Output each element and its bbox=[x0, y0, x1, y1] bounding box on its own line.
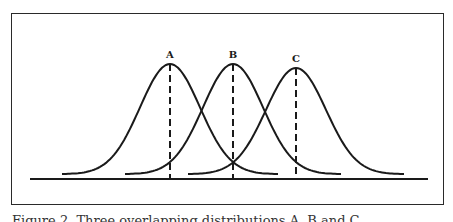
curve-group-b: B bbox=[125, 49, 341, 179]
curve-label-c: C bbox=[292, 53, 300, 64]
distribution-diagram: A B C bbox=[0, 0, 453, 222]
curve-group-a: A bbox=[62, 49, 278, 179]
figure-caption: Figure 2. Three overlapping distribution… bbox=[12, 213, 360, 222]
curve-label-a: A bbox=[165, 49, 174, 60]
curve-label-b: B bbox=[229, 49, 237, 60]
